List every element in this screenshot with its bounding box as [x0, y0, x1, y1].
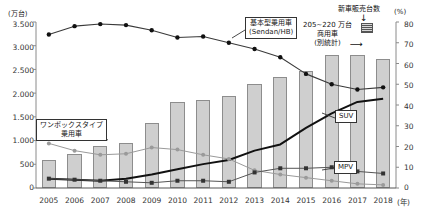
marker-MPV-2015: [304, 166, 308, 170]
suv-callout-line1: SUV: [339, 112, 353, 121]
marker-基本型乗用車(Sedan/HB)-2012: [227, 41, 231, 45]
marker-基本型乗用車(Sedan/HB)-2006: [72, 24, 76, 28]
marker-MPV-2014: [278, 166, 282, 170]
marker-基本型乗用車(Sedan/HB)-2016: [330, 82, 334, 86]
marker-ワンボックスタイプ乗用車-2011: [201, 153, 205, 157]
marker-基本型乗用車(Sedan/HB)-2017: [355, 87, 359, 91]
x-axis-unit-label: (年): [397, 196, 425, 207]
marker-基本型乗用車(Sedan/HB)-2011: [201, 34, 205, 38]
marker-MPV-2006: [73, 178, 77, 182]
marker-ワンボックスタイプ乗用車-2010: [175, 148, 179, 152]
new-car-sales-note-line1: 新車販売台数: [338, 5, 380, 14]
marker-MPV-2009: [150, 181, 154, 185]
x-tick-2018: 2018: [367, 196, 399, 205]
marker-ワンボックスタイプ乗用車-2006: [73, 149, 77, 153]
sedan-callout-line1: 基本型乗用車: [249, 19, 293, 28]
marker-基本型乗用車(Sedan/HB)-2009: [150, 28, 154, 32]
marker-基本型乗用車(Sedan/HB)-2008: [124, 23, 128, 27]
marker-基本型乗用車(Sedan/HB)-2007: [98, 22, 102, 26]
marker-基本型乗用車(Sedan/HB)-2015: [304, 72, 308, 76]
line-ワンボックスタイプ乗用車: [49, 143, 383, 185]
marker-基本型乗用車(Sedan/HB)-2018: [381, 85, 385, 89]
commercial-vehicle-note: 205~220 万台 商用車 (別統計): [303, 21, 352, 48]
new-car-sales-arrow-icon: ↓: [360, 14, 368, 23]
marker-MPV-2005: [47, 177, 51, 181]
suv-callout: SUV: [335, 110, 357, 123]
marker-ワンボックスタイプ乗用車-2014: [278, 173, 282, 177]
marker-MPV-2007: [98, 179, 102, 183]
new-car-sales-note: 新車販売台数: [338, 5, 380, 14]
mpv-callout-line1: MPV: [338, 163, 353, 172]
commercial-note-line2: 商用車: [303, 30, 352, 39]
marker-ワンボックスタイプ乗用車-2007: [98, 153, 102, 157]
commercial-note-line1: 205~220 万台: [303, 21, 352, 30]
onebox-callout-line1: ワンボックスタイプ: [40, 121, 103, 130]
marker-基本型乗用車(Sedan/HB)-2010: [175, 35, 179, 39]
line-series-layer: [0, 0, 427, 218]
marker-MPV-2011: [201, 179, 205, 183]
marker-MPV-2012: [227, 180, 231, 184]
sedan-callout-line2: (Sendan/HB): [249, 28, 293, 37]
marker-ワンボックスタイプ乗用車-2016: [330, 179, 334, 183]
marker-基本型乗用車(Sedan/HB)-2005: [47, 32, 51, 36]
marker-基本型乗用車(Sedan/HB)-2014: [278, 55, 282, 59]
sedan-callout-leader: [232, 30, 245, 38]
marker-ワンボックスタイプ乗用車-2015: [304, 176, 308, 180]
marker-MPV-2010: [175, 179, 179, 183]
mpv-callout: MPV: [334, 161, 357, 174]
onebox-callout-line2: 乗用車: [40, 130, 103, 139]
marker-MPV-2008: [124, 180, 128, 184]
marker-ワンボックスタイプ乗用車-2017: [355, 182, 359, 186]
commercial-note-line3: (別統計): [303, 39, 352, 48]
sedan-callout: 基本型乗用車 (Sendan/HB): [245, 17, 297, 39]
marker-ワンボックスタイプ乗用車-2009: [150, 146, 154, 150]
marker-ワンボックスタイプ乗用車-2018: [381, 183, 385, 187]
commercial-note-arrow-icon: ⟶: [350, 40, 363, 49]
marker-基本型乗用車(Sedan/HB)-2013: [252, 47, 256, 51]
marker-ワンボックスタイプ乗用車-2012: [227, 157, 231, 161]
marker-ワンボックスタイプ乗用車-2008: [124, 152, 128, 156]
marker-MPV-2018: [381, 171, 385, 175]
chart-container: (万台) (%) 3.500 3.000 2.500 2.000 1.500 1…: [0, 0, 427, 218]
marker-MPV-2013: [253, 170, 257, 174]
marker-ワンボックスタイプ乗用車-2005: [47, 141, 51, 145]
onebox-callout: ワンボックスタイプ 乗用車: [36, 119, 107, 141]
